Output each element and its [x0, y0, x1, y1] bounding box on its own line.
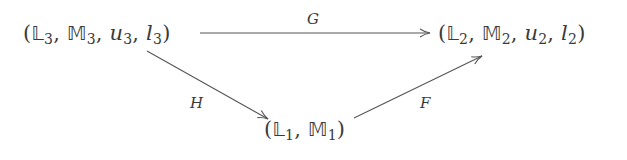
double-struck-L: 𝕃	[31, 22, 44, 44]
var-l: l	[561, 21, 568, 45]
separator: ,	[96, 21, 110, 45]
arrow-H	[147, 51, 268, 119]
double-struck-L: 𝕃	[446, 22, 459, 44]
node-L2-M2-u2-l2: (𝕃2, 𝕄2, u2, l2)	[438, 21, 586, 45]
double-struck-L: 𝕃	[272, 118, 285, 140]
node-close-paren: )	[577, 21, 585, 45]
edge-label-G: G	[307, 11, 319, 27]
separator: ,	[53, 21, 67, 45]
double-struck-M: 𝕄	[308, 118, 328, 140]
var-l: l	[146, 21, 153, 45]
separator: ,	[511, 21, 525, 45]
var-u: u	[525, 21, 539, 45]
double-struck-M: 𝕄	[67, 22, 87, 44]
subscript: 2	[568, 31, 577, 47]
edge-label-H: H	[190, 95, 203, 111]
edge-label-F: F	[420, 95, 430, 111]
subscript: 2	[538, 31, 547, 47]
var-u: u	[110, 21, 124, 45]
subscript: 3	[123, 31, 132, 47]
separator: ,	[132, 21, 146, 45]
double-struck-M: 𝕄	[482, 22, 502, 44]
separator: ,	[547, 21, 561, 45]
subscript: 1	[328, 127, 337, 143]
arrow-F	[354, 56, 482, 118]
subscript: 3	[44, 31, 53, 47]
subscript: 2	[502, 31, 511, 47]
subscript: 2	[459, 31, 468, 47]
subscript: 1	[285, 127, 294, 143]
subscript: 3	[87, 31, 96, 47]
node-L3-M3-u3-l3: (𝕃3, 𝕄3, u3, l3)	[23, 21, 171, 45]
node-L1-M1: (𝕃1, 𝕄1)	[264, 117, 345, 141]
node-close-paren: )	[337, 117, 345, 141]
separator: ,	[468, 21, 482, 45]
subscript: 3	[153, 31, 162, 47]
separator: ,	[294, 117, 308, 141]
node-close-paren: )	[162, 21, 170, 45]
